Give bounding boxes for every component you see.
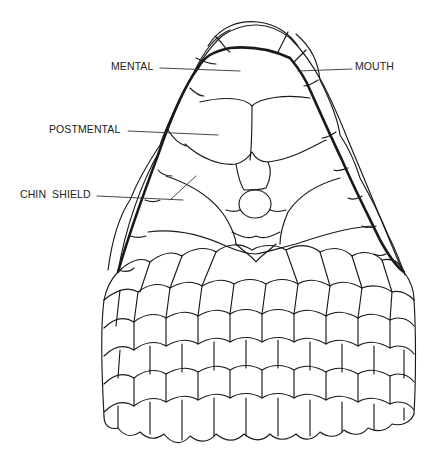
mouth-leader xyxy=(298,69,352,71)
label-mouth: MOUTH xyxy=(355,61,394,72)
mental-scale xyxy=(200,96,310,106)
label-postmental: POSTMENTAL xyxy=(49,124,120,135)
label-mental: MENTAL xyxy=(111,61,153,72)
leader-lines xyxy=(97,68,352,200)
postmental-scales xyxy=(185,106,326,164)
chin-shield-leader-branch xyxy=(170,176,196,200)
snake-head-scale-diagram: MENTAL MOUTH POSTMENTAL CHIN SHIELD xyxy=(0,0,436,459)
gular-scales xyxy=(226,162,286,218)
mouth-line xyxy=(118,47,404,272)
body-scales xyxy=(102,232,416,443)
mental-leader xyxy=(160,68,240,71)
label-chin-shield: CHIN SHIELD xyxy=(20,189,91,200)
postmental-leader xyxy=(128,131,218,135)
chin-shields xyxy=(148,176,372,254)
